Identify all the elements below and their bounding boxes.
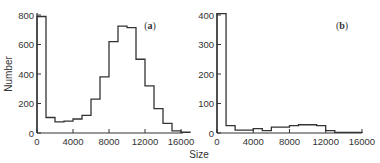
histogram-figure: 0200400600800 0400080001200016000 (a) 01… bbox=[0, 0, 380, 163]
panel-b-axes bbox=[217, 13, 362, 133]
y-axis-label: Number bbox=[3, 56, 14, 92]
svg-text:400: 400 bbox=[18, 69, 34, 80]
svg-text:800: 800 bbox=[18, 10, 34, 21]
svg-text:4000: 4000 bbox=[62, 136, 83, 147]
svg-text:16000: 16000 bbox=[349, 136, 375, 147]
svg-text:100: 100 bbox=[198, 98, 214, 109]
panel-b-xticks: 0400080001200016000 bbox=[214, 129, 375, 147]
svg-text:600: 600 bbox=[18, 39, 34, 50]
svg-text:400: 400 bbox=[198, 10, 214, 21]
panel-a-axes bbox=[37, 13, 183, 133]
x-axis-label: Size bbox=[189, 149, 209, 160]
svg-text:200: 200 bbox=[18, 98, 34, 109]
panel-a-label: (a) bbox=[144, 20, 156, 32]
svg-text:0: 0 bbox=[34, 136, 39, 147]
svg-text:16000: 16000 bbox=[168, 136, 194, 147]
svg-text:0: 0 bbox=[29, 128, 34, 139]
svg-text:8000: 8000 bbox=[98, 136, 119, 147]
panel-a-xticks: 0400080001200016000 bbox=[34, 129, 194, 147]
svg-text:300: 300 bbox=[198, 39, 214, 50]
panel-a-steps bbox=[37, 16, 190, 133]
svg-text:12000: 12000 bbox=[132, 136, 158, 147]
panel-b-steps bbox=[217, 14, 362, 133]
svg-text:200: 200 bbox=[198, 69, 214, 80]
svg-text:4000: 4000 bbox=[243, 136, 264, 147]
panel-a-histogram: 0200400600800 0400080001200016000 (a) bbox=[18, 10, 194, 148]
svg-text:12000: 12000 bbox=[313, 136, 339, 147]
panel-b-histogram: 0100200300400 0400080001200016000 (b) bbox=[198, 10, 375, 148]
panel-b-label: (b) bbox=[336, 20, 348, 32]
svg-text:8000: 8000 bbox=[279, 136, 300, 147]
svg-text:0: 0 bbox=[214, 136, 219, 147]
svg-text:0: 0 bbox=[209, 128, 214, 139]
